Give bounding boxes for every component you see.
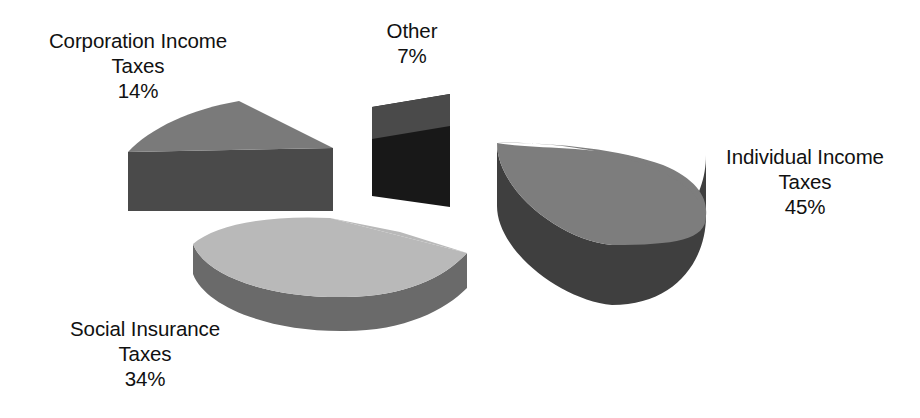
- pie-slice-other: [372, 94, 450, 207]
- slice-label-other-percent: 7%: [352, 43, 472, 68]
- pie-slice-individual-income-taxes: [497, 143, 706, 305]
- pie-slice-social-insurance-taxes: [193, 217, 467, 331]
- slice-label-social-line1: Social Insurance: [30, 316, 260, 341]
- slice-label-corporation-percent: 14%: [8, 78, 268, 103]
- pie-slice-corporation-income-taxes: [128, 101, 333, 211]
- pie-slice-corporation-top: [128, 101, 333, 152]
- slice-label-other: Other 7%: [352, 18, 472, 68]
- slice-label-individual-line2: Taxes: [695, 169, 915, 194]
- pie-slice-corporation-side: [128, 148, 333, 211]
- slice-label-individual-percent: 45%: [695, 194, 915, 219]
- pie-chart: Corporation Income Taxes 14% Other 7% In…: [0, 0, 920, 418]
- slice-label-individual-income-taxes: Individual Income Taxes 45%: [695, 144, 915, 219]
- slice-label-corporation-income-taxes: Corporation Income Taxes 14%: [8, 28, 268, 103]
- slice-label-other-line1: Other: [352, 18, 472, 43]
- slice-label-social-insurance-taxes: Social Insurance Taxes 34%: [30, 316, 260, 391]
- slice-label-social-percent: 34%: [30, 366, 260, 391]
- slice-label-individual-line1: Individual Income: [695, 144, 915, 169]
- slice-label-social-line2: Taxes: [30, 341, 260, 366]
- slice-label-corporation-line1: Corporation Income: [8, 28, 268, 53]
- slice-label-corporation-line2: Taxes: [8, 53, 268, 78]
